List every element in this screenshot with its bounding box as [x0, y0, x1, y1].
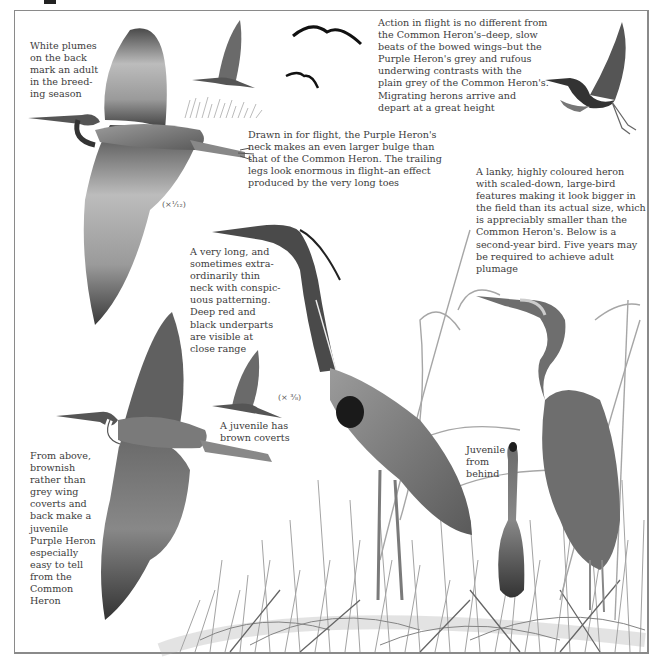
caption-from-above: From above, brownish rather than grey wi… [30, 450, 96, 607]
caption-juvenile-coverts: A juvenile has brown coverts [220, 420, 290, 444]
distant-flight-2 [286, 73, 318, 88]
scale-label-flight: (×¹⁄₁₂) [162, 200, 186, 209]
flight-right [545, 22, 636, 134]
juvenile-flight-small [212, 350, 282, 418]
grass-tuft [185, 97, 262, 118]
caption-lanky: A lanky, highly coloured heron with scal… [476, 166, 646, 275]
heron-illustration [0, 0, 663, 666]
caption-white-plumes: White plumes on the back mark an adult i… [30, 40, 98, 100]
caption-long-neck: A very long, and sometimes extra- ordina… [190, 246, 281, 355]
caption-juvenile-behind: Juvenile from behind [466, 444, 505, 480]
small-flight-left [192, 20, 255, 88]
scale-label-standing: (× ³⁄₈) [278, 393, 301, 402]
caption-drawn-in: Drawn in for flight, the Purple Heron's … [248, 129, 442, 189]
caption-action-in-flight: Action in flight is no different from th… [378, 17, 549, 114]
distant-flight-1 [293, 27, 361, 44]
